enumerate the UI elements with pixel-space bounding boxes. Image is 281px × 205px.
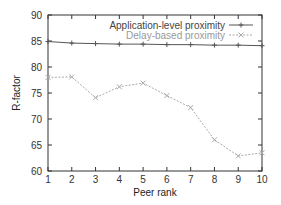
y-tick-label: 75 bbox=[31, 88, 43, 99]
x-tick-label: 10 bbox=[256, 174, 268, 185]
series-line bbox=[48, 42, 262, 46]
y-tick-label: 80 bbox=[31, 62, 43, 73]
x-axis-label: Peer rank bbox=[133, 187, 177, 198]
series-line bbox=[48, 77, 262, 156]
legend-label: Delay-based proximity bbox=[126, 30, 225, 41]
x-tick-label: 8 bbox=[212, 174, 218, 185]
series-delay-based bbox=[46, 74, 265, 158]
y-tick-label: 60 bbox=[31, 166, 43, 177]
legend: Application-level proximityDelay-based p… bbox=[109, 20, 253, 41]
y-tick-label: 85 bbox=[31, 36, 43, 47]
y-tick-label: 90 bbox=[31, 10, 43, 21]
series-group bbox=[46, 39, 265, 158]
x-tick-label: 5 bbox=[140, 174, 146, 185]
x-tick-label: 2 bbox=[69, 174, 75, 185]
x-tick-label: 4 bbox=[117, 174, 123, 185]
x-tick-label: 1 bbox=[45, 174, 51, 185]
line-chart: 6065707580859012345678910 Application-le… bbox=[0, 0, 281, 205]
x-tick-label: 3 bbox=[93, 174, 99, 185]
y-tick-label: 70 bbox=[31, 114, 43, 125]
x-tick-label: 9 bbox=[235, 174, 241, 185]
y-tick-label: 65 bbox=[31, 140, 43, 151]
x-tick-label: 6 bbox=[164, 174, 170, 185]
x-tick-label: 7 bbox=[188, 174, 194, 185]
y-axis-label: R-factor bbox=[11, 75, 22, 111]
